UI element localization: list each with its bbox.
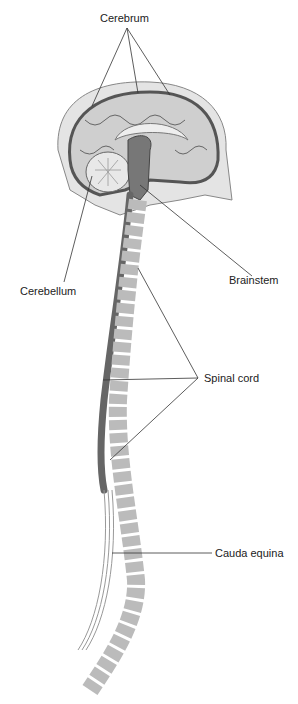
brainstem-shape <box>128 136 151 200</box>
label-brainstem: Brainstem <box>229 274 279 286</box>
label-cerebrum: Cerebrum <box>100 12 149 24</box>
label-cerebellum: Cerebellum <box>20 285 76 297</box>
label-cauda-equina: Cauda equina <box>215 547 284 559</box>
label-spinal-cord: Spinal cord <box>204 372 259 384</box>
cns-illustration <box>0 0 298 704</box>
